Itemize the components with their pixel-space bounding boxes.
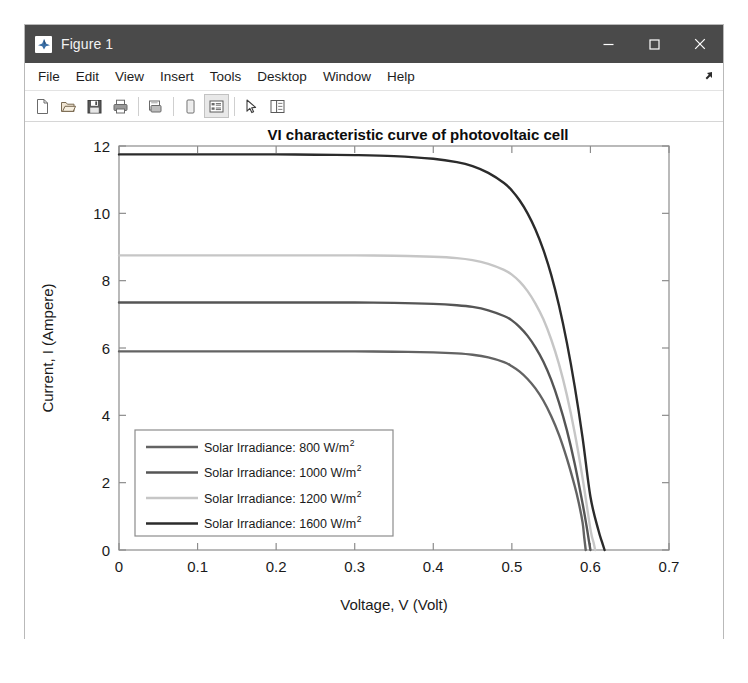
legend-label-2: Solar Irradiance: 1000 W/m — [204, 466, 356, 480]
legend-exponent-4: 2 — [357, 514, 362, 524]
chart-title: VI characteristic curve of photovoltaic … — [268, 126, 569, 143]
window-controls — [585, 25, 723, 63]
menu-item-file[interactable]: File — [30, 69, 68, 84]
toolbar-separator — [173, 97, 174, 116]
menu-item-insert[interactable]: Insert — [152, 69, 202, 84]
y-tick-label: 2 — [102, 474, 110, 491]
y-tick-label: 4 — [102, 407, 110, 424]
show-plot-tools-icon[interactable] — [265, 94, 290, 118]
matlab-logo-icon — [35, 36, 52, 53]
title-bar[interactable]: Figure 1 — [25, 25, 723, 63]
undock-arrow-icon[interactable] — [702, 68, 713, 86]
y-tick-label: 8 — [102, 272, 110, 289]
x-tick-label: 0.3 — [344, 558, 365, 575]
y-tick-label: 10 — [93, 205, 110, 222]
window-title: Figure 1 — [61, 36, 113, 52]
edit-plot-pointer-icon[interactable] — [239, 94, 264, 118]
save-figure-icon[interactable] — [82, 94, 107, 118]
x-tick-label: 0.6 — [580, 558, 601, 575]
x-tick-label: 0 — [115, 558, 123, 575]
menu-item-desktop[interactable]: Desktop — [249, 69, 315, 84]
minimize-icon[interactable] — [585, 25, 631, 63]
print-figure-icon[interactable] — [108, 94, 133, 118]
toolbar — [25, 91, 723, 122]
menu-bar: File Edit View Insert Tools Desktop Wind… — [25, 63, 723, 91]
legend-label-1: Solar Irradiance: 800 W/m — [204, 441, 349, 455]
legend-exponent-3: 2 — [357, 489, 362, 499]
legend-label-3: Solar Irradiance: 1200 W/m — [204, 492, 356, 506]
menu-item-edit[interactable]: Edit — [68, 69, 107, 84]
x-tick-label: 0.2 — [266, 558, 287, 575]
insert-colorbar-icon[interactable] — [178, 94, 203, 118]
x-tick-label: 0.5 — [501, 558, 522, 575]
figure-canvas: VI characteristic curve of photovoltaic … — [25, 122, 723, 640]
legend-exponent-1: 2 — [350, 438, 355, 448]
toolbar-separator — [234, 97, 235, 116]
chart-legend[interactable]: Solar Irradiance: 800 W/m2Solar Irradian… — [135, 430, 393, 536]
legend-label-4: Solar Irradiance: 1600 W/m — [204, 517, 356, 531]
y-tick-label: 0 — [102, 542, 110, 559]
x-axis-title: Voltage, V (Volt) — [340, 596, 448, 613]
new-figure-icon[interactable] — [30, 94, 55, 118]
x-tick-label: 0.7 — [659, 558, 680, 575]
legend-exponent-2: 2 — [357, 463, 362, 473]
y-axis-title: Current, I (Ampere) — [39, 283, 56, 412]
vi-characteristic-chart: VI characteristic curve of photovoltaic … — [25, 122, 723, 640]
x-tick-label: 0.4 — [423, 558, 444, 575]
y-tick-label: 6 — [102, 340, 110, 357]
menu-item-tools[interactable]: Tools — [202, 69, 250, 84]
menu-item-view[interactable]: View — [107, 69, 152, 84]
menu-item-help[interactable]: Help — [379, 69, 423, 84]
y-tick-label: 12 — [93, 138, 110, 155]
figure-window: Figure 1 File Edit View — [24, 24, 724, 639]
close-icon[interactable] — [677, 25, 723, 63]
insert-legend-icon[interactable] — [204, 94, 229, 118]
toolbar-separator — [138, 97, 139, 116]
open-file-icon[interactable] — [56, 94, 81, 118]
menu-item-window[interactable]: Window — [315, 69, 379, 84]
print-preview-icon[interactable] — [143, 94, 168, 118]
x-tick-label: 0.1 — [187, 558, 208, 575]
maximize-icon[interactable] — [631, 25, 677, 63]
